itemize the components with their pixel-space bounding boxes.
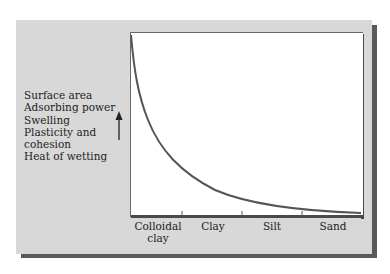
y-property: cohesion — [24, 138, 115, 150]
y-property: Swelling — [24, 114, 115, 126]
y-property: Adsorbing power — [24, 101, 115, 113]
y-property: Plasticity and — [24, 126, 115, 138]
x-label-clay: Clay — [186, 220, 240, 232]
x-label-sand: Sand — [304, 220, 362, 232]
x-label-silt: Silt — [244, 220, 300, 232]
x-label-colloidal-clay: Colloidal clay — [130, 220, 186, 244]
y-property: Surface area — [24, 89, 115, 101]
y-property-list: Surface area Adsorbing power Swelling Pl… — [24, 89, 115, 163]
y-property: Heat of wetting — [24, 150, 115, 162]
up-arrow-icon — [116, 111, 123, 140]
